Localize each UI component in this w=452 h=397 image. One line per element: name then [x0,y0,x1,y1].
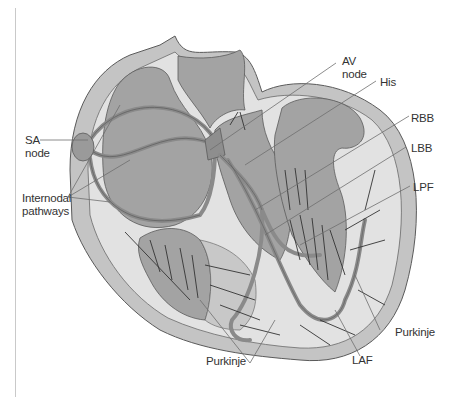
label-sa-line1: SA [25,134,50,147]
label-av-line2: node [342,68,367,81]
label-his: His [380,76,396,89]
label-purkinje-left: Purkinje [206,355,246,368]
label-lpf: LPF [413,181,434,194]
label-lbb: LBB [411,142,432,155]
label-sa-line2: node [25,147,50,160]
label-internodal-line2: pathways [22,205,71,218]
label-purkinje-right: Purkinje [395,326,435,339]
label-av-line1: AV [342,55,367,68]
label-internodal-line1: Internodal [22,192,71,205]
label-sa-node: SA node [25,134,50,160]
label-internodal-pathways: Internodal pathways [22,192,71,218]
label-av-node: AV node [342,55,367,81]
label-laf: LAF [352,354,373,367]
label-rbb: RBB [411,112,434,125]
